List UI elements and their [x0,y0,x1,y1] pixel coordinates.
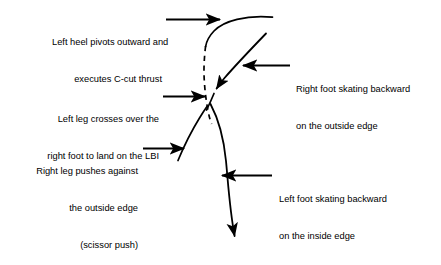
annotation-right-foot-backward-line-2: on the outside edge [296,120,432,132]
annotation-left-heel-pivot-line-2: executes C-cut thrust [52,73,162,85]
trace-left-foot-inside-edge [211,104,235,236]
annotation-left-foot-backward: Left foot skating backward on the inside… [279,168,415,265]
annotation-left-heel-pivot-line-1: Left heel pivots outward and [52,36,162,48]
annotation-left-foot-backward-line-2: on the inside edge [279,230,415,242]
trace-crossing-stroke [217,34,266,89]
annotation-right-leg-pushes-line-2: the outside edge [14,202,138,214]
trace-left-heel-c-cut [204,46,212,124]
annotation-left-foot-backward-line-1: Left foot skating backward [279,193,415,205]
annotation-right-leg-pushes-line-1: Right leg pushes against [14,165,138,177]
annotation-left-leg-crosses-line-1: Left leg crosses over the [42,113,159,125]
annotation-right-foot-backward: Right foot skating backward on the outsi… [296,58,432,157]
annotation-right-leg-pushes: Right leg pushes against the outside edg… [14,140,138,265]
trace-right-foot-outside-edge [206,17,273,47]
annotation-right-foot-backward-line-1: Right foot skating backward [296,83,432,95]
annotation-right-leg-pushes-line-3: (scissor push) [14,239,138,251]
diagram-canvas: Left heel pivots outward and executes C-… [0,0,441,265]
trace-right-leg-push-edge [178,107,207,161]
